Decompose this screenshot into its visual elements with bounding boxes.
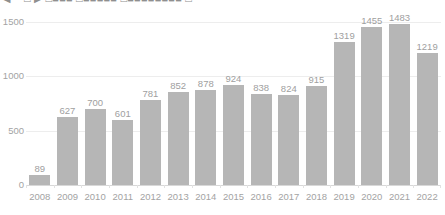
bars-group: 8962770060178185287892483882491513191455…	[26, 0, 441, 215]
x-axis-tick	[413, 185, 414, 188]
bar-value-label-2020: 1455	[358, 15, 386, 26]
x-axis-tick	[220, 185, 221, 188]
bar-slot-2011[interactable]: 601	[109, 22, 137, 185]
y-axis-tick-label: 0	[2, 180, 24, 190]
bar-2021[interactable]	[389, 24, 410, 185]
x-axis-tick	[330, 185, 331, 188]
bar-slot-2020[interactable]: 1455	[358, 22, 386, 185]
bar-value-label-2016: 838	[247, 82, 275, 93]
bar-2019[interactable]	[334, 42, 355, 185]
bar-2008[interactable]	[29, 175, 50, 185]
y-axis-tick-0: 0	[0, 180, 24, 190]
x-axis-labels-group: 2008200920102011201220132014201520162017…	[26, 191, 441, 205]
bar-slot-2015[interactable]: 924	[220, 22, 248, 185]
bar-value-label-2018: 915	[303, 74, 331, 85]
x-axis-label-2012: 2012	[137, 191, 165, 203]
bar-value-label-2009: 627	[54, 105, 82, 116]
bar-value-label-2012: 781	[137, 88, 165, 99]
x-axis-label-2021: 2021	[386, 191, 414, 203]
bar-2020[interactable]	[361, 27, 382, 185]
bar-value-label-2014: 878	[192, 78, 220, 89]
x-axis-label-2010: 2010	[81, 191, 109, 203]
x-axis-tick	[164, 185, 165, 188]
bar-value-label-2015: 924	[220, 73, 248, 84]
x-axis-tick	[275, 185, 276, 188]
bar-chart: ◀ ━ □ ▶ □■■■ □■■■■■ □■■■■■■■■ □ 05001000…	[0, 0, 445, 215]
x-axis-label-2020: 2020	[358, 191, 386, 203]
bar-2011[interactable]	[112, 120, 133, 185]
x-axis-tick	[386, 185, 387, 188]
bar-value-label-2008: 89	[26, 163, 54, 174]
x-axis-tick	[192, 185, 193, 188]
y-axis-tick-500: 500	[0, 126, 24, 136]
x-axis-tick	[358, 185, 359, 188]
x-axis-tick	[54, 185, 55, 188]
bar-2012[interactable]	[140, 100, 161, 185]
x-axis-label-2009: 2009	[54, 191, 82, 203]
bar-2009[interactable]	[57, 117, 78, 185]
bar-2017[interactable]	[278, 95, 299, 185]
y-axis-tick-1500: 1500	[0, 17, 24, 27]
bar-2014[interactable]	[195, 90, 216, 185]
bar-2018[interactable]	[306, 86, 327, 185]
bar-slot-2021[interactable]: 1483	[386, 22, 414, 185]
x-axis-tick	[440, 185, 441, 188]
bar-slot-2009[interactable]: 627	[54, 22, 82, 185]
x-axis-tick	[81, 185, 82, 188]
y-axis-tick-label: 1000	[2, 71, 24, 81]
x-axis-label-2022: 2022	[413, 191, 441, 203]
y-axis-tick-1000: 1000	[0, 71, 24, 81]
bar-slot-2018[interactable]: 915	[303, 22, 331, 185]
bar-value-label-2022: 1219	[413, 41, 441, 52]
bar-2015[interactable]	[223, 85, 244, 185]
x-axis-label-2016: 2016	[247, 191, 275, 203]
x-axis-tick	[109, 185, 110, 188]
x-axis-tick	[303, 185, 304, 188]
bar-slot-2013[interactable]: 852	[164, 22, 192, 185]
x-axis-tick	[137, 185, 138, 188]
bar-slot-2019[interactable]: 1319	[330, 22, 358, 185]
x-axis-tick	[26, 185, 27, 188]
bar-2022[interactable]	[417, 53, 438, 185]
bar-slot-2012[interactable]: 781	[137, 22, 165, 185]
bar-value-label-2011: 601	[109, 108, 137, 119]
x-axis-label-2011: 2011	[109, 191, 137, 203]
x-axis-label-2014: 2014	[192, 191, 220, 203]
x-axis-ticks-group	[26, 185, 441, 189]
x-axis-label-2013: 2013	[164, 191, 192, 203]
bar-slot-2014[interactable]: 878	[192, 22, 220, 185]
bar-value-label-2010: 700	[81, 97, 109, 108]
x-axis-label-2018: 2018	[303, 191, 331, 203]
x-axis-label-2017: 2017	[275, 191, 303, 203]
bar-slot-2022[interactable]: 1219	[413, 22, 441, 185]
bar-slot-2017[interactable]: 824	[275, 22, 303, 185]
y-axis-tick-label: 500	[2, 126, 24, 136]
bar-value-label-2019: 1319	[330, 30, 358, 41]
y-axis-tick-label: 1500	[2, 17, 24, 27]
bar-2016[interactable]	[251, 94, 272, 185]
bar-value-label-2013: 852	[164, 80, 192, 91]
bar-slot-2010[interactable]: 700	[81, 22, 109, 185]
bar-slot-2008[interactable]: 89	[26, 22, 54, 185]
bar-slot-2016[interactable]: 838	[247, 22, 275, 185]
bar-value-label-2017: 824	[275, 83, 303, 94]
x-axis-label-2015: 2015	[220, 191, 248, 203]
bar-2010[interactable]	[85, 109, 106, 185]
x-axis-label-2019: 2019	[330, 191, 358, 203]
bar-value-label-2021: 1483	[386, 12, 414, 23]
plot-area: 050010001500 896277006017818528789248388…	[0, 0, 445, 215]
x-axis-tick	[247, 185, 248, 188]
bar-2013[interactable]	[168, 92, 189, 185]
x-axis-label-2008: 2008	[26, 191, 54, 203]
